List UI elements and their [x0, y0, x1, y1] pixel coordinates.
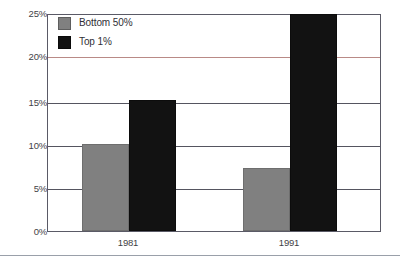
bar-1981-bottom50: [82, 144, 129, 231]
y-axis-tick-25: 25%: [7, 9, 47, 19]
chart-legend: Bottom 50% Top 1%: [58, 16, 132, 54]
bar-1991-bottom50: [243, 168, 290, 231]
legend-label-bottom50: Bottom 50%: [79, 18, 132, 28]
black-swatch-icon: [58, 36, 71, 49]
y-axis-tick-5: 5%: [7, 184, 47, 194]
bar-1991-top1: [290, 14, 337, 231]
y-axis-tick-20: 20%: [7, 52, 47, 62]
legend-label-top1: Top 1%: [79, 37, 112, 47]
legend-item-bottom50: Bottom 50%: [58, 16, 132, 30]
y-axis-tick-0: 0%: [7, 227, 47, 237]
x-axis-tick-1981: 1981: [98, 238, 158, 248]
gray-swatch-icon: [58, 17, 71, 30]
bottom-divider: [0, 255, 400, 256]
bar-1981-top1: [129, 100, 176, 231]
x-axis-tick-1991: 1991: [259, 238, 319, 248]
y-axis-tick-10: 10%: [7, 141, 47, 151]
y-axis-tick-15: 15%: [7, 98, 47, 108]
legend-item-top1: Top 1%: [58, 35, 132, 49]
bar-chart-figure: 25% 20% 15% 10% 5% 0% 1981 1991 Bottom 5…: [0, 0, 400, 268]
